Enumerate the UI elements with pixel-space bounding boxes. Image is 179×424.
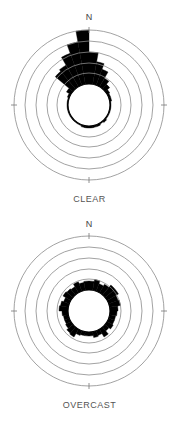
north-label: N (79, 12, 99, 22)
chart-title: CLEAR (0, 194, 179, 204)
inner-circle (68, 290, 110, 332)
overcast-rose-panel: N OVERCAST (0, 206, 179, 424)
clear-rose-chart (0, 0, 179, 190)
rose-bar (62, 311, 68, 316)
inner-circle (68, 84, 110, 126)
overcast-rose-chart (0, 206, 179, 396)
north-label: N (79, 219, 99, 229)
chart-title: OVERCAST (0, 400, 179, 410)
clear-rose-panel: N CLEAR (0, 0, 179, 212)
